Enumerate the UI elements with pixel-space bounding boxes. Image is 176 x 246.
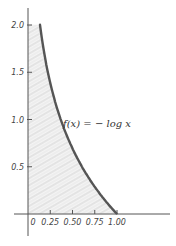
y-tick-label: 2.0: [11, 21, 24, 30]
x-tick-label: 0.50: [64, 218, 82, 227]
function-label: f(x) = − log x: [62, 118, 131, 129]
x-tick-label: 0: [30, 218, 35, 227]
y-tick-label: 0.5: [11, 163, 24, 172]
y-tick-label: 1.0: [11, 116, 24, 125]
x-tick-label: 0.75: [86, 218, 104, 227]
x-tick-label: 1.00: [108, 218, 126, 227]
y-tick-label: 1.5: [11, 68, 24, 77]
chart: 0.51.01.52.0 00.250.500.751.00 f(x) = − …: [0, 0, 176, 246]
x-tick-label: 0.25: [41, 218, 59, 227]
